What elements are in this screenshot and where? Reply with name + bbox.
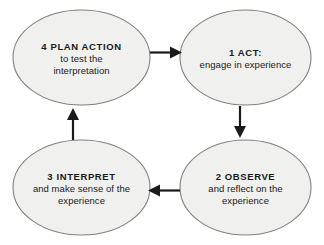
cycle-canvas — [0, 0, 324, 245]
arrow-act-to-observe-icon — [234, 106, 246, 138]
node-ellipse-observe[interactable] — [180, 140, 311, 235]
node-ellipse-interpret[interactable] — [13, 140, 150, 235]
experiential-learning-cycle-diagram: 4 PLAN ACTION to test the interpretation… — [0, 0, 324, 245]
arrow-interpret-to-plan-icon — [67, 108, 79, 140]
node-ellipse-plan[interactable] — [13, 10, 150, 105]
arrow-observe-to-interpret-icon — [148, 185, 180, 197]
arrow-plan-to-act-icon — [150, 47, 182, 59]
node-ellipse-act[interactable] — [180, 10, 311, 105]
